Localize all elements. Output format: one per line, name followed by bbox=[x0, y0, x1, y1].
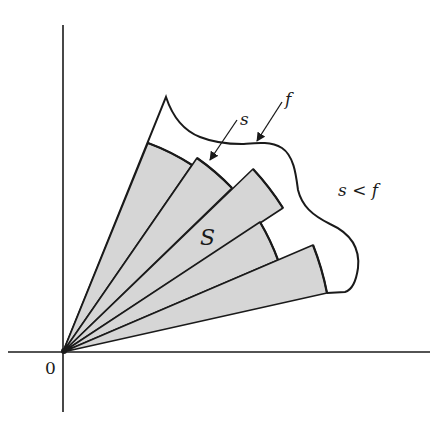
f-arrow bbox=[257, 102, 282, 141]
sector-diagram: s f S s < f 0 bbox=[0, 0, 447, 425]
region-s bbox=[63, 143, 327, 352]
label-s: s bbox=[240, 109, 249, 129]
origin-point bbox=[61, 348, 67, 354]
label-inequality: s < f bbox=[338, 180, 381, 200]
label-region-s: S bbox=[200, 225, 215, 250]
label-f: f bbox=[283, 89, 294, 109]
s-arrow bbox=[210, 120, 237, 160]
label-origin: 0 bbox=[45, 358, 56, 378]
